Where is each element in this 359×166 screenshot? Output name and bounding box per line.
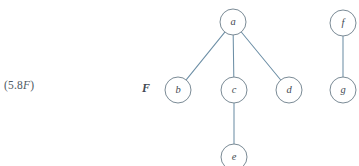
graph-node-f[interactable]: f — [330, 10, 356, 36]
graph-edge-a-b — [186, 32, 225, 80]
graph-edge-a-c — [233, 35, 234, 77]
node-label-c: c — [232, 84, 237, 95]
node-label-e: e — [232, 151, 237, 162]
graph-node-g[interactable]: g — [330, 77, 356, 103]
graph-node-e[interactable]: e — [221, 144, 247, 166]
node-label-d: d — [286, 84, 292, 95]
node-label-a: a — [230, 16, 235, 27]
forest-graph-canvas: abcdefg — [0, 0, 359, 166]
node-label-b: b — [175, 84, 180, 95]
node-layer: abcdefg — [165, 9, 356, 166]
graph-edge-a-d — [241, 32, 280, 80]
figure-root: (5.8F) F abcdefg — [0, 0, 359, 166]
graph-node-c[interactable]: c — [221, 77, 247, 103]
graph-node-b[interactable]: b — [165, 77, 191, 103]
graph-node-d[interactable]: d — [276, 77, 302, 103]
node-label-g: g — [340, 84, 345, 95]
graph-node-a[interactable]: a — [220, 9, 246, 35]
edge-layer — [186, 32, 343, 144]
